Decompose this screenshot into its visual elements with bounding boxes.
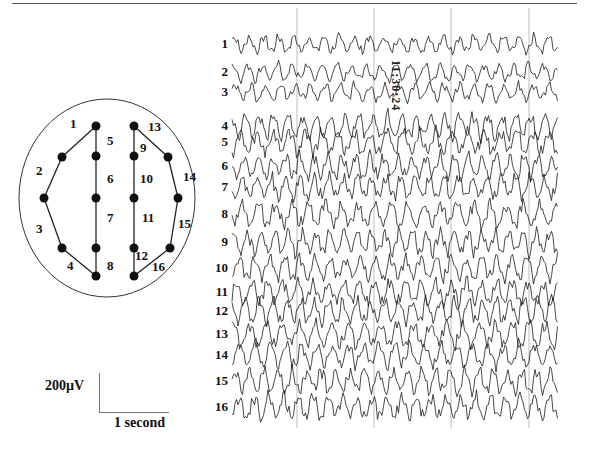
montage-link (62, 126, 96, 157)
electrode-dot (174, 194, 183, 203)
channel-label: 15 (204, 374, 228, 387)
eeg-trace-channel-13 (232, 318, 558, 351)
channel-label: 10 (204, 261, 228, 274)
eeg-trace-channel-5 (232, 125, 558, 158)
electrode-dot (166, 244, 175, 253)
electrode-dot (164, 153, 173, 162)
electrode-dot (92, 194, 101, 203)
montage-channel-label: 4 (67, 258, 74, 273)
eeg-trace-channel-8 (232, 198, 558, 230)
eeg-figure: 12345678910111213141516 (0, 0, 591, 456)
electrode-dot (130, 194, 139, 203)
time-scale-label: 1 second (114, 415, 165, 431)
electrode-dot (130, 152, 139, 161)
montage-channel-label: 10 (140, 171, 153, 186)
electrode-dot (40, 194, 49, 203)
montage-channel-label: 13 (148, 119, 162, 134)
montage-link (170, 198, 178, 248)
channel-label: 7 (204, 180, 228, 193)
channel-label: 2 (204, 65, 228, 78)
eeg-trace-channel-11 (232, 276, 558, 309)
eeg-trace-channel-15 (232, 364, 558, 397)
electrode-dot (58, 244, 67, 253)
channel-label: 5 (204, 135, 228, 148)
channel-label: 13 (204, 327, 228, 340)
montage-channel-label: 5 (107, 133, 114, 148)
eeg-trace-channel-16 (232, 390, 558, 423)
montage-link (44, 157, 62, 198)
channel-label: 6 (204, 159, 228, 172)
montage-link (44, 198, 62, 248)
eeg-trace-channel-9 (232, 226, 558, 259)
electrode-dot (130, 272, 139, 281)
channel-label: 16 (204, 400, 228, 413)
eeg-trace-channel-10 (232, 252, 558, 284)
montage-channel-label: 9 (140, 140, 147, 155)
montage-channel-label: 14 (183, 169, 197, 184)
amplitude-scale-label: 200µV (45, 378, 84, 394)
montage-channel-label: 6 (107, 171, 114, 186)
montage-link (168, 157, 178, 198)
channel-label: 8 (204, 207, 228, 220)
channel-label: 11 (204, 285, 228, 298)
timestamp-label: 11:30:24 (388, 60, 403, 111)
electrode-dot (92, 272, 101, 281)
channel-label: 14 (204, 348, 228, 361)
electrode-montage-diagram: 12345678910111213141516 (19, 99, 197, 297)
eeg-trace-channel-14 (232, 338, 558, 372)
eeg-trace-channel-1 (232, 32, 558, 55)
montage-channel-label: 11 (142, 210, 154, 225)
channel-label: 12 (204, 304, 228, 317)
montage-channel-label: 8 (107, 258, 114, 273)
eeg-trace-channel-6 (232, 149, 558, 182)
time-scale-bar (99, 412, 169, 413)
montage-channel-label: 12 (135, 248, 148, 263)
channel-label: 3 (204, 85, 228, 98)
amplitude-scale-bar (99, 373, 100, 413)
channel-label: 9 (204, 235, 228, 248)
electrode-dot (92, 244, 101, 253)
eeg-trace-channel-4 (232, 108, 558, 143)
montage-channel-label: 3 (36, 221, 43, 236)
montage-channel-label: 16 (152, 259, 166, 274)
montage-channel-label: 1 (70, 116, 77, 131)
eeg-trace-channel-7 (232, 171, 558, 203)
electrode-dot (130, 122, 139, 131)
electrode-dot (92, 152, 101, 161)
channel-label: 1 (204, 37, 228, 50)
montage-channel-label: 15 (178, 216, 192, 231)
electrode-dot (92, 122, 101, 131)
montage-channel-label: 7 (107, 210, 114, 225)
channel-label: 4 (204, 119, 228, 132)
montage-channel-label: 2 (36, 163, 43, 178)
electrode-dot (58, 153, 67, 162)
